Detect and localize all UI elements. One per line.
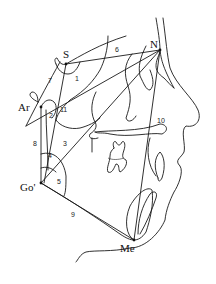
measure-3: 3	[63, 140, 67, 147]
measure-8: 8	[33, 140, 37, 147]
gonial-arc-inner	[41, 167, 56, 172]
measure-2: 2	[49, 112, 53, 119]
label-s: S	[63, 48, 69, 60]
point-ar	[40, 106, 43, 109]
point-go	[40, 182, 43, 185]
sella-nasion-line	[66, 50, 160, 64]
upper-incisor	[155, 152, 164, 181]
measure-4: 4	[48, 152, 52, 159]
label-ar: Ar	[18, 101, 30, 113]
condyle	[30, 92, 38, 102]
measure-9: 9	[71, 211, 75, 218]
measure-10: 10	[157, 117, 165, 124]
cephalometric-diagram: S N Ar Go' Me 1 2 3 4 5 6 7 8 9 10 11	[0, 0, 216, 284]
molar-occlusal	[108, 158, 124, 160]
point-n	[159, 49, 162, 52]
upper-incisor-root	[148, 138, 156, 176]
point-me	[133, 239, 136, 242]
measure-5: 5	[57, 178, 61, 185]
palatal-plane	[95, 124, 166, 135]
measure-11: 11	[60, 106, 67, 113]
label-me: Me	[120, 242, 135, 254]
measure-1: 1	[75, 75, 79, 82]
nasion-menton-line	[134, 50, 160, 240]
forehead-contour	[156, 18, 174, 88]
label-go: Go'	[20, 181, 35, 193]
point-s	[65, 63, 68, 66]
diagram-svg: S N Ar Go' Me 1 2 3 4 5 6 7 8 9 10 11	[0, 0, 216, 284]
molar-crown	[107, 141, 126, 172]
measure-7: 7	[48, 77, 52, 84]
measure-6: 6	[115, 46, 119, 53]
soft-tissue-profile	[76, 18, 199, 262]
label-n: N	[150, 38, 158, 50]
